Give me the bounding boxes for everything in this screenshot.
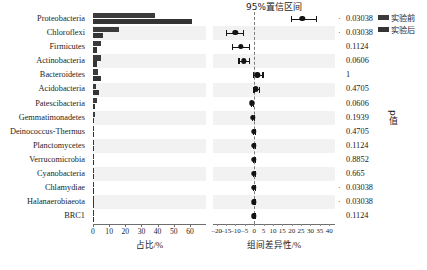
bar-before xyxy=(93,84,96,89)
confidence-interval-panel: 组间差异性/% –20–15–10–50510152025303540 xyxy=(213,12,335,224)
x-tick-label: 40 xyxy=(154,227,162,236)
x-tick-label: 30 xyxy=(138,227,146,236)
bar-row xyxy=(93,83,206,97)
bar-row xyxy=(93,153,206,167)
taxa-label: Gemmatimonadetes xyxy=(0,111,88,125)
ci-point-marker xyxy=(238,44,243,49)
legend-item[interactable]: 实验后 xyxy=(378,23,427,35)
bar-before xyxy=(93,55,101,60)
bar-after xyxy=(93,217,94,222)
bar-row xyxy=(93,111,206,125)
taxa-label: Actinobacteria xyxy=(0,54,88,68)
x-tick-label: 15 xyxy=(279,227,286,235)
bar-before xyxy=(93,98,97,103)
ci-row xyxy=(213,40,335,54)
bar-before xyxy=(93,41,101,46)
x-tick xyxy=(320,224,321,226)
x-tick xyxy=(226,224,227,226)
legend: 实验前实验后 xyxy=(378,11,427,35)
bar-after xyxy=(93,188,94,193)
legend-swatch-icon xyxy=(378,27,389,32)
p-value-text: 0.4705 xyxy=(346,84,369,93)
bar-after xyxy=(93,118,94,123)
x-tick-label: 20 xyxy=(288,227,295,235)
x-tick xyxy=(245,224,246,226)
ci-row xyxy=(213,12,335,26)
ci-point-marker xyxy=(299,16,304,21)
bar-before xyxy=(93,210,94,215)
ci-row xyxy=(213,153,335,167)
bar-after xyxy=(93,174,94,179)
p-value-text: 0.1124 xyxy=(346,211,369,220)
ci-row xyxy=(213,83,335,97)
p-value-row: 0.4705 xyxy=(337,125,385,139)
ci-point-marker xyxy=(251,143,256,148)
significance-marker-icon: · xyxy=(338,12,341,26)
significance-marker-icon: · xyxy=(338,195,341,209)
bar-before xyxy=(93,140,94,145)
bar-before xyxy=(93,154,94,159)
bar-row xyxy=(93,40,206,54)
bar-row xyxy=(93,68,206,82)
x-tick-label: –5 xyxy=(241,227,248,235)
taxa-label: Deinococcus-Thermus xyxy=(0,125,88,139)
bar-before xyxy=(93,126,94,131)
bar-row xyxy=(93,167,206,181)
bar-row xyxy=(93,26,206,40)
p-value-text: 0.03038 xyxy=(346,197,373,206)
ci-whisker-cap xyxy=(232,44,233,50)
bar-row xyxy=(93,97,206,111)
x-tick xyxy=(301,224,302,226)
x-tick-label: 60 xyxy=(186,227,194,236)
x-tick xyxy=(217,224,218,226)
x-tick-label: 5 xyxy=(262,227,266,235)
p-value-row: 0.1124 xyxy=(337,209,385,223)
ci-whisker-cap xyxy=(291,16,292,22)
ci-row xyxy=(213,54,335,68)
taxa-label: Planctomycetes xyxy=(0,139,88,153)
bar-before xyxy=(93,27,119,32)
bar-row xyxy=(93,209,206,223)
x-tick-label: –10 xyxy=(230,227,241,235)
x-tick-label: 50 xyxy=(170,227,178,236)
x-tick xyxy=(273,224,274,226)
ci-point-marker xyxy=(251,185,256,190)
bar-before xyxy=(93,69,98,74)
x-tick xyxy=(292,224,293,226)
bar-before xyxy=(93,168,94,173)
ci-whisker-cap xyxy=(243,30,244,36)
p-value-row: 0.1124 xyxy=(337,139,385,153)
x-tick xyxy=(310,224,311,226)
x-tick-label: 10 xyxy=(105,227,113,236)
bar-after xyxy=(93,104,95,109)
bar-after xyxy=(93,202,94,207)
p-value-text: 0.1124 xyxy=(346,141,369,150)
significance-marker-icon: · xyxy=(338,26,341,40)
p-value-text: 0.8852 xyxy=(346,155,369,164)
bar-before xyxy=(93,196,94,201)
legend-item[interactable]: 实验前 xyxy=(378,11,427,23)
x-tick-label: 20 xyxy=(122,227,130,236)
ci-whisker-cap xyxy=(238,58,239,64)
bar-before xyxy=(93,112,95,117)
bar-after xyxy=(93,90,99,95)
ci-x-axis-title: 组间差异性/% xyxy=(213,238,335,250)
ci-row xyxy=(213,111,335,125)
x-tick-label: 35 xyxy=(316,227,323,235)
x-tick xyxy=(329,224,330,226)
p-value-text: 0.1124 xyxy=(346,42,369,51)
taxa-label: Chlamydiae xyxy=(0,181,88,195)
taxa-label: Verrucomicrobia xyxy=(0,153,88,167)
p-value-text: 0.665 xyxy=(346,169,365,178)
bar-row xyxy=(93,12,206,26)
ci-row xyxy=(213,26,335,40)
abundance-bar-panel: 占比/% 0102030405060 xyxy=(93,12,206,224)
p-value-text: 0.03038 xyxy=(346,14,373,23)
x-tick xyxy=(264,224,265,226)
ci-row xyxy=(213,97,335,111)
taxa-label: Patescibacteria xyxy=(0,97,88,111)
p-value-row: 0.665 xyxy=(337,167,385,181)
x-tick-label: 40 xyxy=(326,227,333,235)
p-value-row: ·0.03038 xyxy=(337,195,385,209)
bar-row xyxy=(93,54,206,68)
